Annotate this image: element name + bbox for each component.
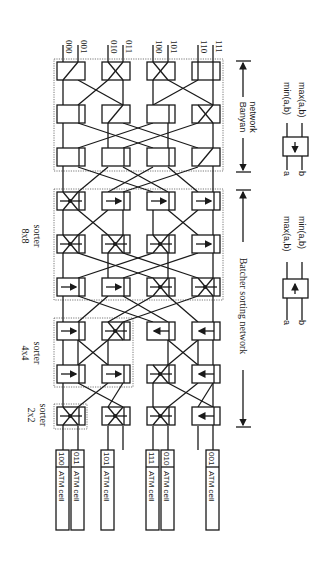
switch-box [102, 322, 130, 340]
svg-text:101: 101 [102, 452, 111, 466]
switch-box [57, 322, 85, 340]
switch-box [147, 365, 175, 383]
switch-box [147, 148, 175, 166]
batcher-banyan-diagram: 000 001 010 011 100 101 110 111 [0, 0, 315, 585]
atm-cell: 111 ATM cell [146, 450, 159, 530]
legend-b: b [297, 320, 307, 325]
atm-cells: 100 ATM cell 011 ATM cell 101 ATM cell 1… [56, 450, 219, 530]
atm-cell: 010 ATM cell [161, 450, 174, 530]
switch-box [57, 365, 85, 383]
switch-box [192, 365, 220, 383]
svg-text:001: 001 [207, 452, 216, 466]
switch-box [57, 148, 85, 166]
switch-box [57, 62, 85, 80]
sorter-labels: 2x2 sorter 4x4 sorter 8x8 sorter [20, 225, 49, 427]
banyan-label-2: network [248, 101, 258, 133]
legend-min: min(a,b) [297, 216, 307, 249]
switch-box [102, 105, 130, 123]
switch-box [192, 192, 220, 210]
legend-a: a [282, 171, 292, 176]
switch-box [57, 235, 85, 253]
svg-text:ATM cell: ATM cell [162, 471, 171, 502]
switch-box [102, 407, 130, 425]
svg-text:ATM cell: ATM cell [147, 471, 156, 502]
switch-box [102, 365, 130, 383]
svg-text:100: 100 [57, 452, 66, 466]
sorter-4x4-label: 4x4 [20, 346, 31, 361]
legend-max: max(a,b) [282, 216, 292, 252]
output-label: 111 [214, 40, 224, 53]
legend-max: max(a,b) [297, 82, 307, 118]
switch-box [147, 235, 175, 253]
switch-box [147, 322, 175, 340]
legend-b: b [297, 171, 307, 176]
svg-text:011: 011 [72, 452, 81, 465]
atm-cell: 100 ATM cell [56, 450, 69, 530]
sorter-8x8-label-2: sorter [32, 225, 43, 248]
output-label: 100 [154, 40, 164, 54]
batcher-label: Batcher sorting network [238, 258, 249, 355]
switch-box [192, 278, 220, 296]
svg-text:ATM cell: ATM cell [102, 471, 111, 502]
switch-box [147, 105, 175, 123]
switch-box [192, 322, 220, 340]
sorter-2x2-label-2: sorter [38, 404, 49, 427]
switch-box [147, 62, 175, 80]
output-label: 101 [169, 40, 179, 54]
output-label: 010 [109, 40, 119, 54]
atm-cell: 011 ATM cell [71, 450, 84, 530]
sorter-2x2-label: 2x2 [26, 408, 37, 423]
output-label: 000 [64, 40, 74, 54]
batcher-bracket: Batcher sorting network [236, 190, 251, 427]
switch-box [57, 105, 85, 123]
switch-box [192, 62, 220, 80]
svg-text:ATM cell: ATM cell [72, 471, 81, 502]
switch-box [57, 192, 85, 210]
svg-text:010: 010 [162, 452, 171, 466]
switch-box [102, 192, 130, 210]
switch-box [147, 192, 175, 210]
legend-min: min(a,b) [282, 82, 292, 115]
output-label: 011 [124, 40, 134, 53]
switch-box [192, 407, 220, 425]
output-labels: 000 001 010 011 100 101 110 111 [64, 40, 224, 54]
output-label: 001 [79, 40, 89, 54]
atm-cell: 101 ATM cell [101, 450, 114, 530]
switch-box [102, 62, 130, 80]
banyan-label: Banyan [238, 102, 248, 133]
banyan-bracket: Banyan network [236, 61, 258, 172]
switch-elements [57, 62, 220, 425]
output-label: 110 [199, 40, 209, 54]
sorter-4x4-label-2: sorter [32, 342, 43, 365]
legend-descending: a b max(a,b) min(a,b) [282, 216, 308, 325]
switch-box [192, 105, 220, 123]
sorter-8x8-label: 8x8 [20, 229, 31, 244]
switch-box [102, 148, 130, 166]
switch-box [102, 278, 130, 296]
legend-a: a [282, 320, 292, 325]
switch-box [147, 407, 175, 425]
switch-box [102, 235, 130, 253]
switch-box [57, 407, 85, 425]
switch-box [57, 278, 85, 296]
atm-cell: 001 ATM cell [206, 450, 219, 530]
switch-box [192, 235, 220, 253]
switch-box [192, 148, 220, 166]
svg-text:ATM cell: ATM cell [207, 471, 216, 502]
svg-text:111: 111 [147, 452, 156, 465]
svg-text:ATM cell: ATM cell [57, 471, 66, 502]
switch-box [147, 278, 175, 296]
legend-ascending: a b min(a,b) max(a,b) [282, 82, 308, 176]
